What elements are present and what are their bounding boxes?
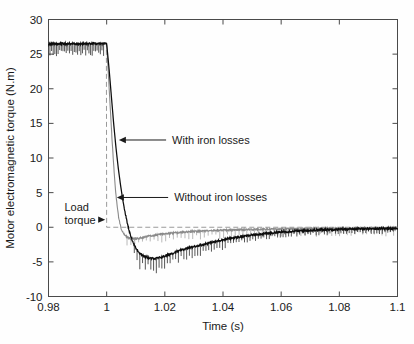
annotation-label-line1: Load	[64, 201, 88, 213]
annotation-label-line2: torque	[64, 214, 95, 226]
y-tick-label: -10	[26, 291, 43, 303]
y-tick-label: 20	[30, 83, 43, 95]
annotation-label: Without iron losses	[174, 191, 267, 203]
figure-background	[0, 0, 414, 344]
y-tick-label: 5	[36, 187, 42, 199]
x-tick-label: 1	[103, 301, 109, 313]
x-tick-label: 1.02	[154, 301, 176, 313]
x-tick-label: 1.06	[270, 301, 292, 313]
y-tick-label: 15	[30, 117, 43, 129]
figure-container: 0.9811.021.041.061.081.1 -10-50510152025…	[0, 0, 414, 344]
y-axis-title: Motor electromagnetic torque (N.m)	[4, 67, 16, 249]
x-axis-title: Time (s)	[202, 320, 244, 332]
torque-vs-time-chart: 0.9811.021.041.061.081.1 -10-50510152025…	[0, 0, 414, 344]
annotation-label: With iron losses	[172, 134, 250, 146]
x-tick-label: 1.04	[212, 301, 235, 313]
y-tick-label: 10	[30, 152, 43, 164]
y-tick-label: 0	[36, 221, 42, 233]
y-tick-label: -5	[32, 256, 42, 268]
y-tick-label: 30	[30, 14, 43, 26]
y-tick-label: 25	[30, 48, 43, 60]
x-tick-label: 1.1	[390, 301, 406, 313]
x-tick-label: 1.08	[328, 301, 350, 313]
